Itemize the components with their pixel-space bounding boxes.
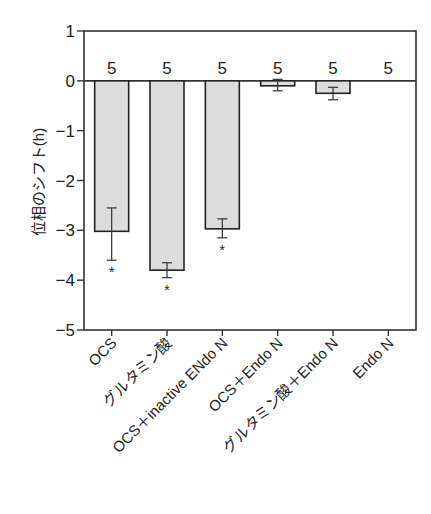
plot-frame (84, 31, 416, 330)
y-tick-label: −3 (56, 221, 75, 240)
y-tick-label: 1 (66, 22, 75, 41)
y-tick-label: −2 (56, 172, 75, 191)
sample-size-label: 5 (273, 59, 282, 78)
bar-group (316, 81, 350, 100)
bar-group: * (205, 81, 239, 258)
sample-size-labels: 555555 (107, 59, 393, 78)
sample-size-label: 5 (384, 59, 393, 78)
sample-size-label: 5 (218, 59, 227, 78)
bar (205, 81, 239, 229)
x-axis: OCSグルタミン酸OCS＋inactive ENdo NOCS＋Endo Nグル… (85, 330, 397, 456)
x-category-label: OCS (85, 334, 120, 369)
significance-marker: * (220, 242, 226, 258)
y-tick-label: −4 (56, 271, 75, 290)
bar (150, 81, 184, 270)
significance-marker: * (109, 264, 115, 280)
x-category-label: Endo N (349, 334, 396, 381)
y-tick-label: −1 (56, 122, 75, 141)
sample-size-label: 5 (107, 59, 116, 78)
bars: *** (95, 79, 350, 297)
x-category-label: グルタミン酸＋Endo N (219, 334, 341, 456)
plot-border (84, 31, 416, 330)
sample-size-label: 5 (162, 59, 171, 78)
bar-group (261, 79, 295, 90)
y-axis-label: 位相のシフト(h) (30, 128, 47, 236)
bar-chart: 10−1−2−3−4−5 *** 555555 OCSグルタミン酸OCS＋ina… (0, 0, 431, 514)
bar-group: * (150, 81, 184, 298)
bar-group: * (95, 81, 129, 280)
significance-marker: * (164, 282, 170, 298)
y-axis: 10−1−2−3−4−5 (56, 22, 84, 340)
y-tick-label: 0 (66, 72, 75, 91)
sample-size-label: 5 (328, 59, 337, 78)
y-tick-label: −5 (56, 321, 75, 340)
